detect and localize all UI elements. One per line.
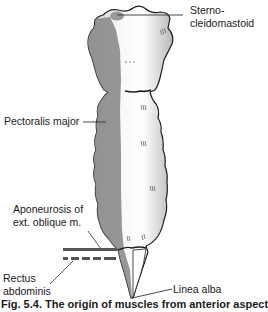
label-aponeurosis: Aponeurosis of ext. oblique m. — [13, 203, 83, 228]
label-pectoralis-major: Pectoralis major — [4, 115, 79, 128]
label-sternocleidomastoid-line2: cleidomastoid — [190, 17, 254, 30]
rectus-abdominis-dashed-bar — [63, 257, 116, 260]
label-rectus-line2: abdominis — [3, 285, 51, 298]
label-aponeurosis-line2: ext. oblique m. — [13, 216, 83, 229]
sternocleidomastoid-attachment — [110, 12, 124, 21]
linea-alba-leader — [132, 289, 172, 298]
label-rectus-line1: Rectus — [3, 272, 51, 285]
aponeurosis-solid-bar — [63, 248, 117, 251]
rectus-abdominis-leader — [50, 261, 73, 284]
label-sternocleidomastoid: Sterno- cleidomastoid — [190, 4, 254, 29]
label-sternocleidomastoid-line1: Sterno- — [190, 4, 254, 17]
sternum-diagram: Sterno- cleidomastoid Pectoralis major A… — [0, 0, 268, 312]
xiphoid-process — [133, 249, 146, 298]
aponeurosis-leader — [88, 231, 101, 249]
sternum-illustration — [0, 0, 268, 312]
label-rectus-abdominis: Rectus abdominis — [3, 272, 51, 297]
label-linea-alba: Linea alba — [173, 283, 221, 296]
figure-caption: Fig. 5.4. The origin of muscles from ant… — [1, 298, 268, 310]
label-aponeurosis-line1: Aponeurosis of — [13, 203, 83, 216]
